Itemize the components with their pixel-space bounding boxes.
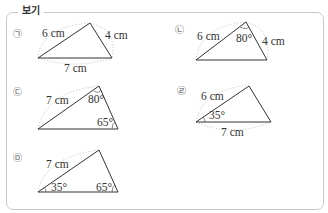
angle-arc	[44, 187, 46, 192]
angle-arc	[240, 27, 249, 29]
angle-label: 80°	[236, 32, 253, 44]
marker-2: ㉡	[175, 25, 184, 35]
marker-5: ㉤	[13, 153, 22, 163]
side-label: 6 cm	[42, 27, 65, 39]
angle-label: 65°	[96, 181, 113, 193]
marker-4: ㉣	[177, 86, 186, 96]
triangle-5: ㉤ 7 cm 35° 65°	[13, 150, 118, 193]
side-label: 7 cm	[46, 94, 69, 106]
base-label: 7 cm	[64, 62, 87, 74]
angle-arc	[94, 90, 101, 92]
triangles-diagram: ㉠ 6 cm 4 cm 7 cm ㉡ 6 cm 80° 4 cm ㉢ 7 cm …	[0, 0, 328, 213]
angle-arc	[203, 117, 205, 122]
angle-arc	[112, 185, 115, 192]
angle-label: 35°	[51, 181, 68, 193]
side-label: 7 cm	[46, 158, 69, 170]
triangle-3: ㉢ 7 cm 80° 65°	[13, 86, 118, 129]
angle-label: 65°	[97, 116, 114, 128]
angle-label: 80°	[88, 93, 105, 105]
triangle-1: ㉠ 6 cm 4 cm 7 cm	[13, 23, 128, 74]
side-label: 4 cm	[105, 29, 128, 41]
side-label: 6 cm	[201, 90, 224, 102]
triangle-4: ㉣ 6 cm 35° 7 cm	[177, 85, 271, 138]
side-label: 6 cm	[197, 30, 220, 42]
marker-3: ㉢	[13, 87, 22, 97]
base-label: 7 cm	[221, 126, 244, 138]
triangle-2: ㉡ 6 cm 80° 4 cm	[175, 22, 285, 60]
angle-label: 35°	[209, 109, 226, 121]
marker-1: ㉠	[13, 29, 22, 39]
side-label: 4 cm	[262, 35, 285, 47]
